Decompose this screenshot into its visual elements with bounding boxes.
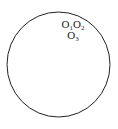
point-labels-line-2: O3	[55, 30, 91, 41]
label-o3-subscript: 3	[75, 35, 79, 43]
label-o3: O3	[67, 30, 78, 41]
figure-canvas: O1 O2 O3	[0, 0, 118, 129]
